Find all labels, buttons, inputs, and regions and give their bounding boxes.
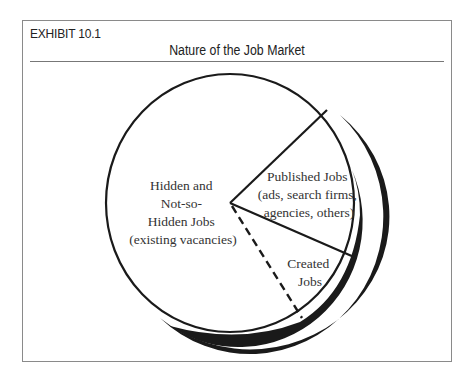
- job-market-pie: Hidden and Not-so- Hidden Jobs (existing…: [0, 0, 474, 385]
- slice-label-published: Published Jobs (ads, search firms, agenc…: [258, 169, 360, 220]
